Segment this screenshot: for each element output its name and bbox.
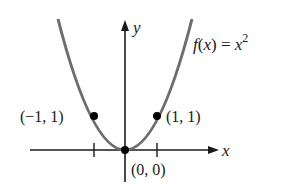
function-label: f(x) = x2 xyxy=(193,31,248,54)
point-label-1-1: (1, 1) xyxy=(166,108,201,126)
point-label-neg1-1: (−1, 1) xyxy=(20,108,64,126)
point-label-origin: (0, 0) xyxy=(131,161,166,179)
point-origin xyxy=(121,146,129,154)
point-neg1-1 xyxy=(90,112,98,120)
x-axis-arrow-icon xyxy=(208,146,219,154)
x-axis-label: x xyxy=(221,141,230,160)
parabola-chart: y x f(x) = x2 (−1, 1) (1, 1) (0, 0) xyxy=(0,0,289,188)
y-axis-label: y xyxy=(131,18,141,37)
y-axis-arrow-icon xyxy=(121,20,129,31)
point-1-1 xyxy=(153,112,161,120)
